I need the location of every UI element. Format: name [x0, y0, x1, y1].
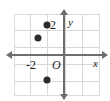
coordinate-plane-figure: 2 -2 O y x	[0, 0, 110, 101]
y-axis-down-arrow-icon	[60, 94, 68, 100]
x-axis-line	[10, 54, 104, 56]
y-axis-line	[63, 13, 65, 99]
data-point	[44, 77, 51, 84]
data-point	[35, 35, 42, 42]
y-axis-tick-label-2: 2	[50, 19, 56, 31]
x-axis-label: x	[93, 58, 98, 69]
origin-label: O	[52, 59, 61, 71]
x-axis-right-arrow-icon	[102, 51, 108, 59]
x-axis-tick-label-neg2: -2	[26, 59, 36, 71]
y-axis-up-arrow-icon	[60, 9, 68, 15]
y-axis-label: y	[68, 17, 73, 28]
x-axis-left-arrow-icon	[6, 51, 12, 59]
